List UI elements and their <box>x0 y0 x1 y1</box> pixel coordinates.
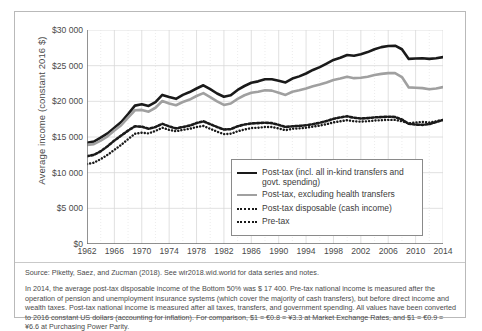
legend-item: Pre-tax <box>237 216 416 228</box>
x-axis-tick-labels: 1962196619701974197819821986199019941998… <box>87 246 443 260</box>
x-axis-tick: 1994 <box>297 246 316 256</box>
legend-item-label: Post-tax disposable (cash income) <box>262 203 392 214</box>
legend-item: Post-tax (incl. all in-kind transfers an… <box>237 167 416 188</box>
x-axis-tick: 2002 <box>351 246 370 256</box>
y-axis-tick: $20 000 <box>52 96 83 106</box>
x-axis-tick: 1998 <box>324 246 343 256</box>
explanatory-note: In 2014, the average post-tax disposable… <box>25 284 457 331</box>
source-note: Source: Piketty, Saez, and Zucman (2018)… <box>25 268 457 278</box>
y-axis-tick: $15 000 <box>52 132 83 142</box>
chart-legend: Post-tax (incl. all in-kind transfers an… <box>231 159 423 236</box>
x-axis-tick: 2014 <box>433 246 452 256</box>
legend-item-label: Pre-tax <box>262 216 289 227</box>
x-axis-tick: 1978 <box>187 246 206 256</box>
legend-item: Post-tax disposable (cash income) <box>237 203 416 215</box>
legend-item-label: Post-tax (incl. all in-kind transfers an… <box>262 167 416 188</box>
figure-frame: Average income (constant 2016 $) $30 000… <box>14 11 466 318</box>
x-axis-tick: 2006 <box>379 246 398 256</box>
y-axis-tick: $5 000 <box>57 203 83 213</box>
x-axis-tick: 1986 <box>242 246 261 256</box>
chart-region: Average income (constant 2016 $) $30 000… <box>15 12 465 260</box>
figure-notes: Source: Piketty, Saez, and Zucman (2018)… <box>25 268 457 331</box>
y-axis-tick: $30 000 <box>52 25 83 35</box>
x-axis-tick: 2010 <box>406 246 425 256</box>
y-axis-tick-labels: $30 000$25 000$20 000$15 000$10 000$5 00… <box>15 30 83 244</box>
y-axis-tick: $25 000 <box>52 61 83 71</box>
x-axis-tick: 1970 <box>132 246 151 256</box>
legend-swatch-dashed-icon <box>237 217 257 228</box>
x-axis-tick: 1962 <box>77 246 96 256</box>
legend-swatch-solid-gray-icon <box>237 190 257 201</box>
legend-swatch-dotted-icon <box>237 204 257 215</box>
x-axis-tick: 1990 <box>269 246 288 256</box>
notes-divider <box>15 262 465 263</box>
legend-item: Post-tax, excluding health transfers <box>237 189 416 201</box>
y-axis-tick: $10 000 <box>52 168 83 178</box>
x-axis-tick: 1982 <box>214 246 233 256</box>
x-axis-tick: 1966 <box>105 246 124 256</box>
legend-swatch-solid-black-icon <box>237 168 257 179</box>
legend-item-label: Post-tax, excluding health transfers <box>262 189 395 200</box>
x-axis-tick: 1974 <box>160 246 179 256</box>
